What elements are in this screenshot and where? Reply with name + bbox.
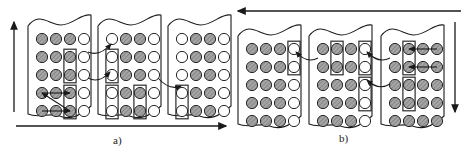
empty-circle [288, 43, 299, 54]
filled-circle [345, 79, 356, 90]
filled-circle [50, 69, 61, 80]
empty-circle [148, 87, 159, 98]
empty-circle [106, 69, 117, 80]
empty-circle [359, 115, 370, 126]
stage-b-label: b) [339, 132, 348, 144]
empty-circle [176, 33, 187, 44]
panel-outline [168, 15, 231, 118]
filled-circle [431, 97, 442, 108]
empty-circle [148, 51, 159, 62]
column-panel [381, 25, 444, 128]
filled-circle [345, 97, 356, 108]
empty-circle [176, 51, 187, 62]
stage-a-label: a) [113, 134, 122, 146]
filled-circle [50, 51, 61, 62]
filled-circle [260, 43, 271, 54]
filled-circle [120, 69, 131, 80]
filled-circle [260, 97, 271, 108]
filled-circle [134, 87, 145, 98]
filled-circle [260, 79, 271, 90]
empty-circle [106, 51, 117, 62]
filled-circle [64, 69, 75, 80]
filled-circle [190, 69, 201, 80]
empty-circle [176, 105, 187, 116]
filled-circle [246, 115, 257, 126]
filled-circle [417, 79, 428, 90]
panel-outline [238, 25, 301, 128]
filled-circle [317, 43, 328, 54]
empty-circle [78, 69, 89, 80]
filled-circle [317, 79, 328, 90]
filled-circle [403, 115, 414, 126]
filled-circle [317, 97, 328, 108]
diagram-canvas [0, 0, 469, 153]
empty-circle [176, 69, 187, 80]
filled-circle [331, 79, 342, 90]
empty-circle [78, 33, 89, 44]
filled-circle [389, 79, 400, 90]
filled-circle [204, 105, 215, 116]
empty-circle [359, 61, 370, 72]
filled-circle [345, 115, 356, 126]
filled-circle [246, 79, 257, 90]
filled-circle [246, 43, 257, 54]
empty-circle [106, 87, 117, 98]
filled-circle [417, 97, 428, 108]
filled-circle [331, 61, 342, 72]
filled-circle [64, 51, 75, 62]
filled-circle [36, 33, 47, 44]
empty-circle [288, 97, 299, 108]
filled-circle [317, 115, 328, 126]
filled-circle [190, 105, 201, 116]
filled-circle [246, 97, 257, 108]
empty-circle [218, 105, 229, 116]
empty-circle [148, 69, 159, 80]
filled-circle [204, 69, 215, 80]
empty-circle [78, 105, 89, 116]
panel-outline [98, 15, 161, 118]
filled-circle [134, 69, 145, 80]
filled-circle [431, 79, 442, 90]
panel-outline [28, 15, 91, 118]
empty-circle [106, 105, 117, 116]
column-panel [98, 15, 161, 119]
filled-circle [36, 51, 47, 62]
filled-circle [274, 115, 285, 126]
filled-circle [36, 69, 47, 80]
filled-circle [204, 87, 215, 98]
empty-circle [218, 33, 229, 44]
filled-circle [260, 115, 271, 126]
filled-circle [190, 51, 201, 62]
filled-circle [389, 97, 400, 108]
filled-circle [120, 33, 131, 44]
filled-circle [431, 115, 442, 126]
empty-circle [218, 69, 229, 80]
filled-circle [120, 51, 131, 62]
filled-circle [403, 79, 414, 90]
filled-circle [134, 105, 145, 116]
filled-circle [204, 33, 215, 44]
diagram-root: a) b) [0, 0, 469, 153]
column-panel [309, 25, 372, 128]
filled-circle [274, 79, 285, 90]
column-panel [28, 15, 91, 119]
filled-circle [134, 51, 145, 62]
filled-circle [403, 97, 414, 108]
filled-circle [389, 115, 400, 126]
column-panel [238, 25, 301, 128]
filled-circle [120, 105, 131, 116]
empty-circle [359, 43, 370, 54]
panel-outline [381, 25, 444, 128]
filled-circle [389, 61, 400, 72]
filled-circle [246, 61, 257, 72]
empty-circle [218, 51, 229, 62]
filled-circle [331, 43, 342, 54]
empty-circle [288, 115, 299, 126]
filled-circle [260, 61, 271, 72]
empty-circle [106, 33, 117, 44]
filled-circle [134, 33, 145, 44]
filled-circle [190, 87, 201, 98]
empty-circle [148, 105, 159, 116]
filled-circle [190, 33, 201, 44]
empty-circle [359, 97, 370, 108]
